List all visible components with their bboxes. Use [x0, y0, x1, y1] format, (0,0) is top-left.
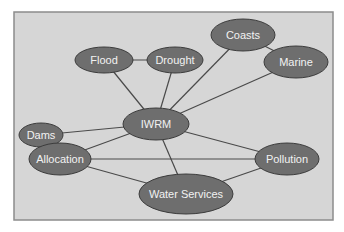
node-iwrm: IWRM [123, 108, 189, 140]
node-water-services: Water Services [139, 174, 233, 214]
node-label: Allocation [36, 153, 84, 165]
iwrm-diagram: FloodDroughtCoastsMarineIWRMDamsAllocati… [0, 0, 344, 232]
node-label: IWRM [141, 118, 172, 130]
node-label: Marine [279, 56, 313, 68]
node-label: Dams [27, 129, 56, 141]
node-flood: Flood [75, 47, 133, 73]
node-label: Coasts [226, 29, 261, 41]
node-label: Flood [90, 54, 118, 66]
node-label: Drought [155, 54, 194, 66]
node-label: Water Services [149, 188, 224, 200]
node-drought: Drought [147, 47, 203, 73]
node-pollution: Pollution [255, 143, 319, 175]
node-coasts: Coasts [211, 19, 275, 51]
node-marine: Marine [264, 46, 328, 78]
node-label: Pollution [266, 153, 308, 165]
node-allocation: Allocation [29, 143, 91, 175]
